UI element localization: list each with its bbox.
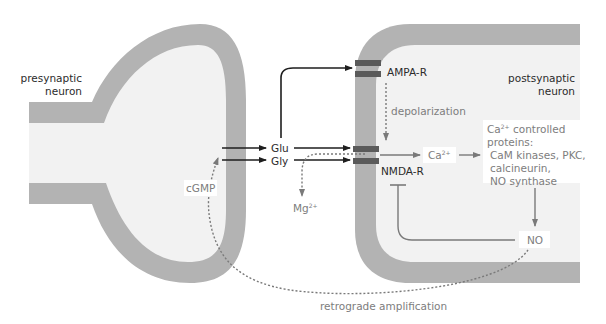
presynaptic-label-line1: presynaptic [21,72,83,84]
depolarization-label: depolarization [391,105,466,117]
synapse-diagram: presynaptic neuron postsynaptic neuron A… [0,0,606,324]
nmda-r-label: NMDA-R [381,165,424,177]
retrograde-amplification-label: retrograde amplification [320,300,447,312]
gly-label: Gly [271,155,288,167]
ca-proteins-heading: Ca2+ controlled [487,123,565,135]
ca-proteins-line2: proteins: [487,136,533,148]
ca-proteins-line3: CaM kinases, PKC, [490,149,586,161]
mg-label: Mg2+ [293,202,318,214]
ca-proteins-line5: NO synthase [490,175,557,187]
glu-label: Glu [271,142,289,154]
ca-proteins-line4: calcineurin, [490,162,551,174]
no-label: NO [527,234,543,246]
presynaptic-label-line2: neuron [45,85,82,97]
postsynaptic-label-line1: postsynaptic [508,72,575,84]
postsynaptic-label-line2: neuron [538,85,575,97]
glu-to-ampa-arrow [281,68,352,138]
cgmp-label: cGMP [186,182,215,194]
ampa-r-label: AMPA-R [387,66,427,78]
presynaptic-neuron [29,24,246,283]
